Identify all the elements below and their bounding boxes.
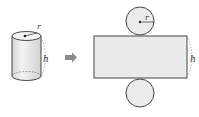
cylinder-net-diagram: r h r h	[0, 0, 199, 117]
cylinder-radius-label: r	[37, 22, 42, 31]
cylinder: r h	[12, 22, 49, 81]
cylinder-body	[12, 36, 41, 81]
net-bottom-circle	[126, 79, 154, 107]
arrow-icon	[65, 53, 77, 63]
net-rectangle	[94, 36, 187, 78]
cylinder-height-label: h	[43, 54, 49, 64]
cylinder-net: r h	[94, 7, 196, 107]
net-height-label: h	[190, 54, 196, 64]
